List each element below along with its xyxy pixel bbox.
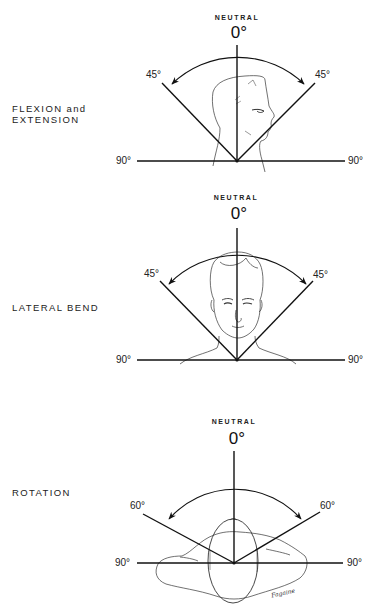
- rotation-diagram: [0, 0, 384, 604]
- head-top-view-icon: [156, 519, 307, 604]
- panel-rotation: NEUTRAL 0° 60° 60° 90° 90° ROTATION Faga…: [0, 0, 384, 604]
